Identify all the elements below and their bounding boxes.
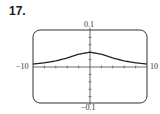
graph — [0, 0, 160, 114]
y-max-label: 0.1 — [84, 21, 94, 29]
x-min-label: −10 — [16, 63, 29, 71]
x-max-label: 10 — [150, 63, 158, 71]
y-min-label: −0.1 — [81, 104, 96, 112]
